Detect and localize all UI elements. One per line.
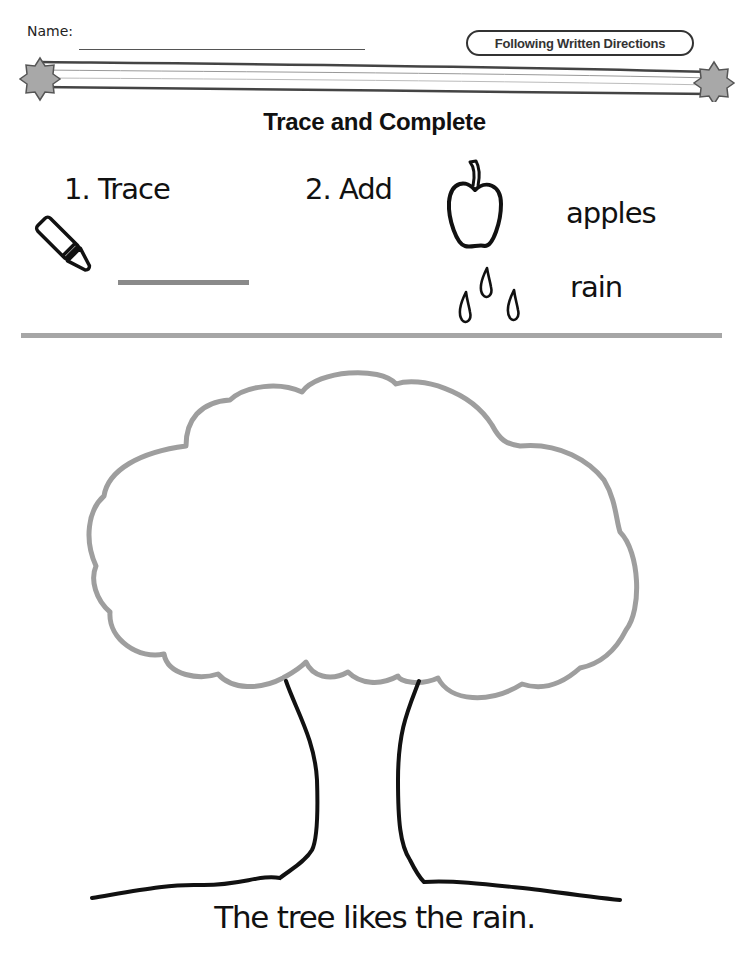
header-banner bbox=[0, 56, 749, 102]
section-badge: Following Written Directions bbox=[466, 30, 694, 56]
raindrops-icon bbox=[454, 262, 534, 328]
worksheet-title: Trace and Complete bbox=[0, 108, 749, 136]
tree-canopy-outline bbox=[89, 373, 637, 698]
label-rain: rain bbox=[570, 270, 622, 304]
star-right-icon bbox=[694, 62, 734, 102]
banner-bar bbox=[40, 62, 712, 94]
tree-drawing[interactable] bbox=[0, 350, 749, 910]
apple-icon bbox=[445, 158, 505, 252]
star-left-icon bbox=[20, 58, 60, 100]
instruction-trace: 1. Trace bbox=[64, 172, 170, 206]
tree-trunk bbox=[92, 681, 620, 900]
name-input-line[interactable] bbox=[79, 49, 365, 50]
trace-line[interactable] bbox=[118, 280, 249, 285]
name-label: Name: bbox=[27, 23, 73, 39]
section-divider bbox=[21, 333, 722, 338]
label-apples: apples bbox=[566, 196, 656, 230]
crayon-icon bbox=[26, 208, 102, 284]
sentence-text: The tree likes the rain. bbox=[0, 899, 749, 935]
instruction-add: 2. Add bbox=[305, 172, 392, 206]
